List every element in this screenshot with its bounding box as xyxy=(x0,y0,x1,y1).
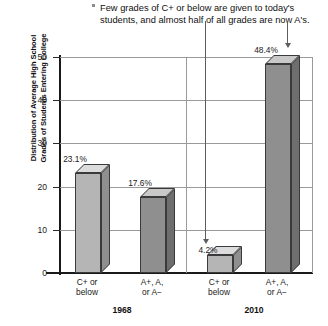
arrow-to-c-plus-2010 xyxy=(205,21,206,239)
category-label-1968-a-grades: A+, A, or A− xyxy=(120,277,184,298)
bar-value-2010-c-plus: 4.2% xyxy=(185,245,231,255)
category-label-line2: or A− xyxy=(120,287,184,297)
bar-side-face xyxy=(291,55,300,273)
bar-side-face xyxy=(166,188,175,273)
category-label-line1: C+ or xyxy=(187,277,251,287)
bar-front-face xyxy=(207,255,233,273)
arrow-head-icon xyxy=(203,239,209,244)
plot-frame-right xyxy=(312,57,313,273)
y-tick-label-20: 20 xyxy=(7,182,47,192)
bar-1968-a-grades[interactable] xyxy=(140,197,166,273)
bar-value-1968-a-grades: 17.6% xyxy=(117,178,163,188)
bar-value-1968-c-plus: 23.1% xyxy=(52,154,98,164)
category-label-2010-c-plus: C+ or below xyxy=(187,277,251,298)
bar-2010-c-plus-or-below[interactable] xyxy=(207,255,233,273)
caption-text: Few grades of C+ or below are given to t… xyxy=(100,2,324,26)
category-label-line2: or A− xyxy=(245,287,309,297)
arrow-to-a-grades-2010 xyxy=(287,21,288,43)
category-label-2010-a-grades: A+, A, or A− xyxy=(245,277,309,298)
category-label-line1: A+, A, xyxy=(245,277,309,287)
caption: Few grades of C+ or below are given to t… xyxy=(100,2,324,26)
bar-2010-a-grades[interactable] xyxy=(265,64,291,273)
bar-front-face xyxy=(265,64,291,273)
category-label-line1: A+, A, xyxy=(120,277,184,287)
plot-area xyxy=(60,57,313,273)
bar-1968-c-plus-or-below[interactable] xyxy=(75,173,101,273)
bar-value-2010-a-grades: 48.4% xyxy=(243,45,289,55)
bar-side-face xyxy=(101,164,110,273)
bar-front-face xyxy=(140,197,166,273)
category-label-line2: below xyxy=(55,287,119,297)
group-divider xyxy=(186,57,187,273)
category-label-line1: C+ or xyxy=(55,277,119,287)
y-tick-label-0: 0 xyxy=(7,268,47,278)
square-bullet-icon xyxy=(92,4,95,7)
category-label-1968-c-plus: C+ or below xyxy=(55,277,119,298)
y-tick-label-50: 50 xyxy=(7,52,47,62)
group-label-1968: 1968 xyxy=(87,305,157,315)
y-tick-label-10: 10 xyxy=(7,225,47,235)
arrow-head-icon xyxy=(285,43,291,48)
category-label-line2: below xyxy=(187,287,251,297)
y-tick-label-30: 30 xyxy=(7,138,47,148)
y-tick-label-40: 40 xyxy=(7,95,47,105)
group-label-2010: 2010 xyxy=(219,305,289,315)
bar-front-face xyxy=(75,173,101,273)
